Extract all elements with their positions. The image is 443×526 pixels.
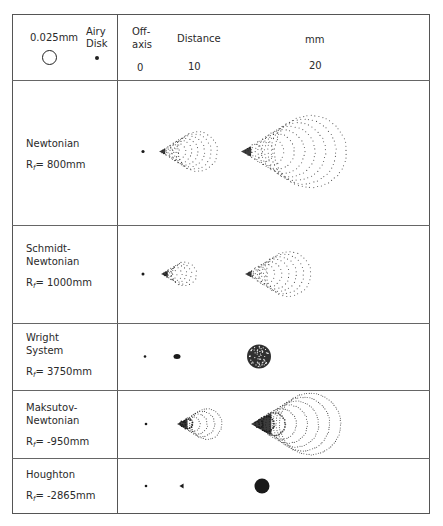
spot-solid bbox=[255, 479, 270, 494]
spot-speckle bbox=[247, 345, 271, 369]
spot-coma bbox=[159, 131, 218, 172]
spot-tightcoma bbox=[177, 408, 222, 440]
spot-coma bbox=[161, 262, 197, 287]
spot-diagrams bbox=[0, 0, 443, 526]
spot-tri bbox=[179, 483, 183, 488]
spot-dot bbox=[142, 273, 145, 276]
spot-coma bbox=[241, 115, 347, 188]
spot-coma bbox=[245, 251, 311, 297]
spot-dot bbox=[144, 355, 147, 358]
spot-tightcoma bbox=[251, 393, 341, 456]
spot-blob bbox=[174, 354, 181, 359]
spot-dot bbox=[145, 485, 148, 488]
spot-dot bbox=[145, 423, 148, 426]
spot-dot bbox=[141, 150, 144, 153]
